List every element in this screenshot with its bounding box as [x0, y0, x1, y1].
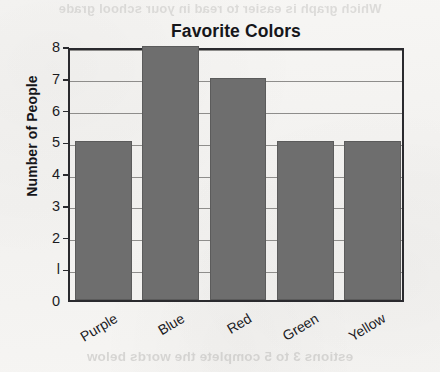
chart-title: Favorite Colors — [68, 21, 404, 42]
x-tick-label-red: Red — [198, 310, 254, 353]
bar-red — [210, 78, 267, 300]
x-tick-label-blue: Blue — [131, 310, 187, 353]
x-tick-label-purple: Purple — [64, 310, 120, 353]
bar-purple — [75, 141, 132, 300]
y-tick-label: 7 — [34, 71, 60, 87]
y-tick-label: 5 — [34, 134, 60, 150]
bars-layer — [70, 50, 402, 300]
bleed-through-text-bottom: estions 3 to 5 complete the words below — [0, 349, 440, 364]
y-tick-label: 3 — [34, 198, 60, 214]
bar-green — [277, 141, 334, 300]
y-tick-label: 2 — [34, 230, 60, 246]
chart-page: Which graph is easier to read in your sc… — [0, 0, 440, 372]
y-tick-label: 4 — [34, 166, 60, 182]
bar-yellow — [344, 141, 401, 300]
y-tick-label: 0 — [34, 293, 60, 309]
bleed-through-text-top: Which graph is easier to read in your sc… — [0, 1, 440, 16]
bar-blue — [142, 46, 199, 300]
x-tick-label-green: Green — [265, 310, 321, 353]
y-tick-label: l — [34, 261, 60, 277]
plot-area — [68, 48, 404, 302]
x-tick-label-yellow: Yellow — [332, 310, 388, 353]
y-tick-label: 6 — [34, 103, 60, 119]
y-tick-label: 8 — [34, 39, 60, 55]
